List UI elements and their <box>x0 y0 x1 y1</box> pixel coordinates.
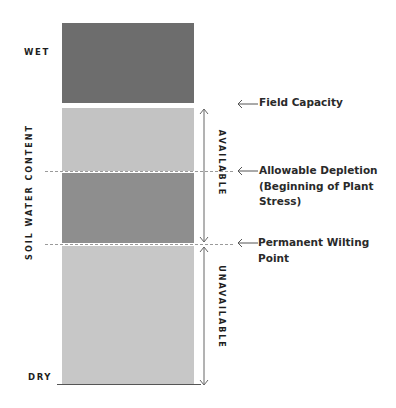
wilting-point-pointer-arrow <box>238 239 258 247</box>
field-capacity-pointer-arrow <box>238 100 258 108</box>
allowable-depletion-pointer-arrow <box>238 167 258 175</box>
available-range-arrow <box>200 109 208 242</box>
available-bracket-label: AVAILABLE <box>217 130 226 196</box>
field-capacity-annotation: Field Capacity <box>259 95 343 111</box>
wet-label: WET <box>24 47 50 57</box>
soil-water-content-axis-label: SOIL WATER CONTENT <box>25 124 34 260</box>
permanent-wilting-point-annotation: Permanent Wilting Point <box>258 235 396 266</box>
dry-label: DRY <box>28 372 52 382</box>
unavailable-bracket-label: UNAVAILABLE <box>217 265 226 349</box>
allowable-depletion-annotation: Allowable Depletion (Beginning of Plant … <box>259 163 378 210</box>
unavailable-range-arrow <box>200 247 208 385</box>
